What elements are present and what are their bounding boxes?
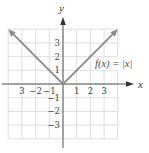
x-axis-arrow-icon [126,81,134,87]
x-tick-label: 3 [101,86,106,96]
y-tick-label: −3 [47,120,60,130]
function-label: f(x) = |x| [95,58,132,70]
y-tick-label: 1 [55,65,60,75]
x-tick-label: 1 [74,86,79,96]
y-tick-label: −1 [47,93,60,103]
y-tick-label: −2 [47,106,60,116]
y-axis-arrow-icon [60,17,66,25]
x-axis-label: x [137,78,143,90]
x-tick-label: −2 [29,86,42,96]
x-tick-label: 3 [19,86,24,96]
y-axis-label: y [58,2,64,14]
x-tick-label: 2 [88,86,93,96]
absolute-value-graph: 3−2−1123321−1−2−3 f(x) = |x| x y [0,0,149,153]
y-tick-label: 2 [55,52,60,62]
y-tick-label: 3 [55,38,60,48]
